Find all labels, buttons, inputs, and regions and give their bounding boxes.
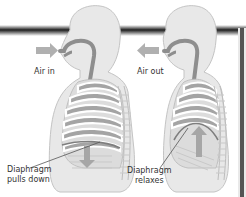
caption-line-2: pulls down <box>7 175 52 185</box>
breathing-diagram: Air in Air out Diaphragm pulls down Diap… <box>0 0 246 197</box>
caption-line-1: Diaphragm <box>7 165 52 175</box>
air-out-arrow-icon <box>137 43 159 58</box>
caption-line-1: Diaphragm <box>127 166 172 176</box>
diaphragm-relaxes-caption: Diaphragm relaxes <box>127 166 172 186</box>
air-out-label: Air out <box>137 67 164 77</box>
diaphragm-pulls-down-caption: Diaphragm pulls down <box>7 165 52 185</box>
air-in-arrow-icon <box>36 43 58 58</box>
air-in-label: Air in <box>34 67 55 77</box>
caption-line-2: relaxes <box>127 176 172 186</box>
